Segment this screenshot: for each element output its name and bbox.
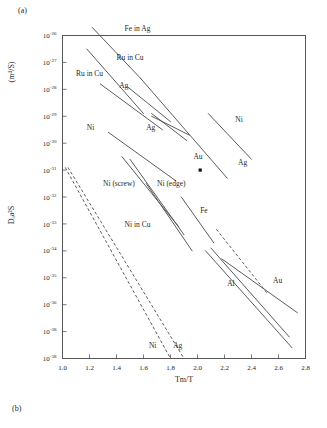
y-tick-label: 10-30 bbox=[43, 139, 57, 148]
series-annotation: Ru in Cu bbox=[76, 69, 103, 78]
plot-frame bbox=[63, 36, 306, 359]
series-annotation: Au bbox=[193, 152, 202, 161]
y-tick-label: 10-31 bbox=[43, 166, 57, 175]
series-annotation: Ag bbox=[146, 123, 155, 132]
series-line bbox=[122, 157, 179, 227]
series-line bbox=[146, 184, 192, 251]
y-tick-label: 10-27 bbox=[43, 58, 57, 67]
series-line bbox=[68, 167, 184, 358]
x-axis-ticks bbox=[63, 355, 306, 359]
y-tick-label: 10-38 bbox=[43, 354, 57, 363]
series-annotation: Ni in Cu bbox=[125, 220, 151, 229]
series-annotation: Au bbox=[273, 276, 282, 285]
series-line bbox=[108, 132, 175, 180]
series-annotation: Ni bbox=[87, 123, 95, 132]
series-annotation: Ag bbox=[238, 158, 247, 167]
series-line bbox=[211, 248, 289, 337]
series-annotation: Ni bbox=[235, 115, 243, 124]
x-tick-label: 1.8 bbox=[166, 364, 175, 372]
x-tick-label: 1.4 bbox=[112, 364, 121, 372]
series-annotation: Ni bbox=[149, 341, 157, 350]
series-line bbox=[181, 197, 213, 243]
series-annotation: Ag bbox=[119, 81, 128, 90]
y-tick-label: 10-35 bbox=[43, 273, 57, 282]
x-tick-label: 2.6 bbox=[274, 364, 283, 372]
x-tick-label: 2.8 bbox=[301, 364, 310, 372]
x-tick-label: 1.6 bbox=[139, 364, 148, 372]
y-axis-units-label: (m⁴/S) bbox=[7, 61, 16, 82]
data-points bbox=[199, 168, 202, 171]
series-line bbox=[127, 87, 170, 122]
x-tick-label: 2.0 bbox=[193, 364, 202, 372]
y-tick-label: 10-32 bbox=[43, 193, 57, 202]
y-tick-label: 10-26 bbox=[43, 31, 57, 40]
series-annotation: Ag bbox=[173, 341, 182, 350]
data-point-marker bbox=[199, 168, 202, 171]
series-annotation: Ni (screw) bbox=[103, 179, 135, 188]
y-tick-label: 10-28 bbox=[43, 85, 57, 94]
x-tick-label: 2.2 bbox=[220, 364, 229, 372]
y-axis-title: Dₐa²S bbox=[7, 206, 16, 224]
x-tick-label: 1.0 bbox=[58, 364, 67, 372]
y-tick-label: 10-36 bbox=[43, 300, 57, 309]
y-axis-tick-labels: 10-2610-2710-2810-2910-3010-3110-3210-33… bbox=[43, 31, 57, 363]
y-tick-label: 10-38 bbox=[43, 327, 57, 336]
x-tick-label: 1.2 bbox=[85, 364, 94, 372]
series-annotation: Ru in Cu bbox=[117, 53, 144, 62]
y-axis-ticks bbox=[63, 36, 67, 359]
y-tick-label: 10-29 bbox=[43, 112, 57, 121]
series-annotation: Ni (edge) bbox=[157, 179, 186, 188]
y-tick-label: 10-34 bbox=[43, 246, 57, 255]
x-axis-tick-labels: 1.01.21.41.61.82.02.22.42.62.8 bbox=[58, 364, 310, 372]
series-annotation: Fe bbox=[200, 206, 208, 215]
x-tick-label: 2.4 bbox=[247, 364, 256, 372]
series-line bbox=[216, 229, 267, 294]
x-axis-title: Tm/T bbox=[175, 375, 193, 384]
y-tick-label: 10-33 bbox=[43, 220, 57, 229]
series-annotation: Al bbox=[227, 279, 235, 288]
series-line bbox=[208, 114, 251, 160]
series-annotations: Fe in AgRu in CuRu in CuAgAgNiNiAuAgNi (… bbox=[76, 24, 283, 349]
series-line bbox=[152, 114, 187, 141]
series-annotation: Fe in Ag bbox=[125, 24, 151, 33]
diffusion-chart: 10-2610-2710-2810-2910-3010-3110-3210-33… bbox=[0, 0, 327, 428]
